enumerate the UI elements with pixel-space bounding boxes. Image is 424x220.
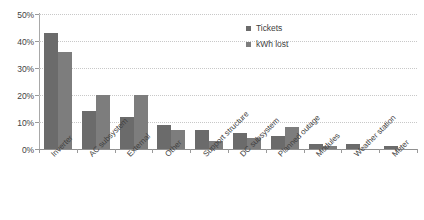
legend-swatch-icon bbox=[246, 26, 251, 31]
legend: Tickets kWh lost bbox=[246, 20, 288, 52]
x-tick-mark bbox=[115, 149, 116, 153]
x-tick-mark bbox=[304, 149, 305, 153]
legend-swatch-icon bbox=[246, 42, 251, 47]
x-tick-mark bbox=[417, 149, 418, 153]
x-tick-mark bbox=[152, 149, 153, 153]
x-tick-mark bbox=[266, 149, 267, 153]
bar-tickets bbox=[82, 111, 96, 149]
x-tick-mark bbox=[379, 149, 380, 153]
y-tick-label: 0% bbox=[0, 146, 34, 155]
bar-chart: 50% 40% 30% 20% 10% 0% InverterAC subsys… bbox=[0, 0, 424, 220]
y-tick-label: 10% bbox=[0, 119, 34, 128]
x-tick-mark bbox=[228, 149, 229, 153]
x-tick-mark bbox=[39, 149, 40, 153]
legend-label: Tickets bbox=[256, 24, 282, 33]
legend-label: kWh lost bbox=[256, 40, 288, 49]
y-tick-label: 30% bbox=[0, 65, 34, 74]
x-tick-mark bbox=[190, 149, 191, 153]
legend-item-kwh-lost: kWh lost bbox=[246, 36, 288, 52]
x-tick-mark bbox=[77, 149, 78, 153]
bar-tickets bbox=[44, 33, 58, 149]
gridline bbox=[39, 14, 417, 15]
x-tick-mark bbox=[341, 149, 342, 153]
y-tick-label: 20% bbox=[0, 92, 34, 101]
y-tick-label: 40% bbox=[0, 38, 34, 47]
gridline bbox=[39, 41, 417, 42]
legend-item-tickets: Tickets bbox=[246, 20, 288, 36]
gridline bbox=[39, 68, 417, 69]
y-tick-label: 50% bbox=[0, 11, 34, 20]
